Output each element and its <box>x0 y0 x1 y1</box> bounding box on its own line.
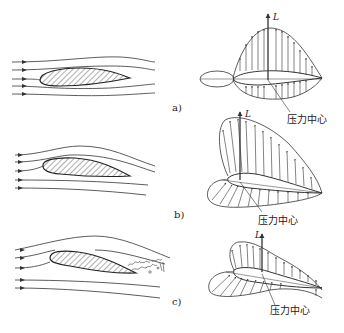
panel-c-lift-label: L <box>254 230 261 240</box>
panel-c-label: c) <box>172 296 182 307</box>
panel-c-airfoil <box>50 251 136 273</box>
panel-a-airfoil <box>40 68 130 86</box>
panel-a-label: a) <box>172 102 182 113</box>
panel-a-pressure-diagram <box>200 14 322 112</box>
panel-c-pressure-diagram <box>209 234 322 305</box>
panel-a-lift-label: L <box>272 12 279 22</box>
panel-b-pressure-diagram <box>207 112 322 212</box>
panel-b-airfoil <box>43 158 130 177</box>
panel-b-label: b) <box>174 209 184 220</box>
airfoil-figure: L 压力中心 a) <box>0 0 344 333</box>
panel-b-center-of-pressure-label: 压力中心 <box>258 214 298 226</box>
panel-c-center-of-pressure-label: 压力中心 <box>270 304 310 316</box>
panel-a-center-of-pressure-label: 压力中心 <box>287 113 327 125</box>
panel-b-lift-label: L <box>244 109 251 119</box>
